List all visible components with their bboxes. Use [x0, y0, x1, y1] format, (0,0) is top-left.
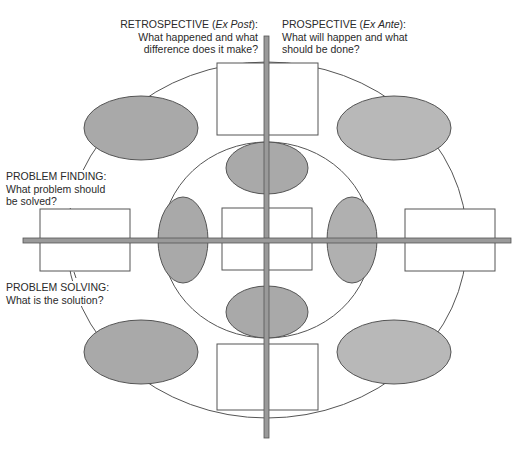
outer-ellipse-top-right [337, 96, 451, 160]
prospective-label: PROSPECTIVE (Ex Ante): What will happen … [282, 18, 432, 56]
problem-finding-title: PROBLEM FINDING: [6, 170, 136, 183]
prospective-line2: should be done? [282, 43, 432, 56]
retrospective-title-italic: Ex Post [215, 18, 251, 30]
leader-line-solving [74, 272, 76, 278]
problem-solving-label: PROBLEM SOLVING: What is the solution? [6, 281, 136, 306]
retrospective-title: RETROSPECTIVE ( [120, 18, 215, 30]
problem-solving-title: PROBLEM SOLVING: [6, 281, 136, 294]
problem-finding-line1: What problem should [6, 183, 136, 196]
problem-finding-line2: be solved? [6, 195, 136, 208]
prospective-title: PROSPECTIVE ( [282, 18, 363, 30]
retrospective-line1: What happened and what [110, 31, 258, 44]
retrospective-title-suffix: ): [252, 18, 258, 30]
prospective-line1: What will happen and what [282, 31, 432, 44]
horizontal-axis-bar [23, 238, 511, 243]
retrospective-label: RETROSPECTIVE (Ex Post): What happened a… [110, 18, 258, 56]
problem-finding-label: PROBLEM FINDING: What problem should be … [6, 170, 136, 208]
problem-solving-line1: What is the solution? [6, 294, 136, 307]
outer-ellipse-bottom-right [337, 320, 451, 384]
vertical-axis-bar [264, 36, 269, 438]
prospective-title-suffix: ): [400, 18, 406, 30]
retrospective-line2: difference does it make? [110, 43, 258, 56]
outer-ellipse-top-left [84, 96, 198, 160]
diagram-canvas [0, 0, 528, 454]
prospective-title-italic: Ex Ante [363, 18, 399, 30]
outer-ellipse-bottom-left [84, 320, 198, 384]
